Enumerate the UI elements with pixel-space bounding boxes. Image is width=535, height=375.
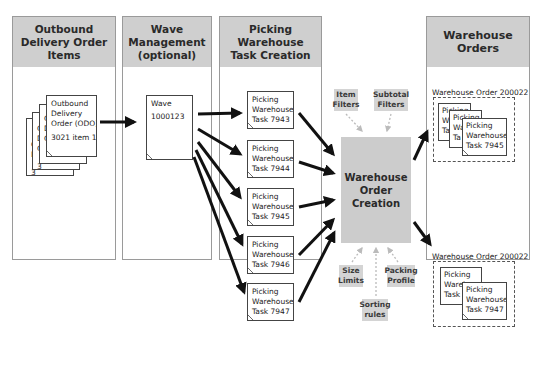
picking-task-7947: Picking Warehouse Task 7947 — [247, 283, 294, 321]
column-title-odo-items: Outbound Delivery Order Items — [13, 17, 115, 67]
picking-task-7946: Picking Warehouse Task 7946 — [247, 236, 294, 274]
picking-task-7943: Picking Warehouse Task 7943 — [247, 91, 294, 129]
dotted-arrow-packing-profile — [388, 248, 398, 262]
wo2-task-7947: Picking Warehouse Task 7947 — [462, 282, 507, 320]
warehouse-order-label-2: Warehouse Order 200022 — [432, 252, 528, 261]
dotted-arrow-subtotal-filters — [387, 114, 391, 131]
packing-profile-box: Packing Profile — [387, 265, 415, 287]
picking-task-7945: Picking Warehouse Task 7945 — [247, 188, 294, 226]
size-limits-box: Size Limits — [339, 265, 363, 287]
wave-document: Wave 1000123 — [146, 95, 193, 160]
picking-task-7944: Picking Warehouse Task 7944 — [247, 140, 294, 178]
warehouse-order-label-1: Warehouse Order 200022 — [432, 88, 528, 97]
column-title-picking-task-creation: Picking Warehouse Task Creation — [220, 17, 321, 67]
item-filters-box: Item Filters — [334, 89, 358, 111]
column-title-warehouse-orders: Warehouse Orders — [427, 17, 529, 67]
warehouse-order-creation: Warehouse Order Creation — [341, 137, 411, 243]
subtotal-filters-box: Subtotal Filters — [374, 89, 408, 111]
dotted-arrow-item-filters — [346, 114, 362, 131]
column-title-wave-management: Wave Management (optional) — [123, 17, 211, 67]
wo1-task-7945: Picking Warehouse Task 7945 — [462, 118, 507, 156]
sorting-rules-box: Sorting rules — [362, 299, 388, 321]
odo-document: Outbound Delivery Order (ODO) 3021 item … — [46, 95, 97, 157]
dotted-arrow-size-limits — [352, 248, 362, 262]
